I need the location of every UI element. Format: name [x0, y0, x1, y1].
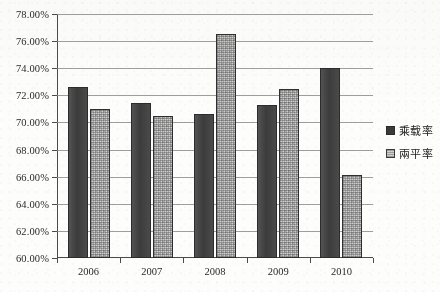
legend-swatch-icon	[386, 149, 395, 158]
bar-2007-series-1	[153, 116, 173, 258]
bar-chart: 60.00%62.00%64.00%66.00%68.00%70.00%72.0…	[0, 0, 440, 292]
x-tick-label-2008: 2008	[205, 266, 226, 277]
legend-swatch-icon	[386, 126, 395, 135]
legend-label: 兩平率	[399, 145, 433, 161]
bar-2007-series-0	[131, 103, 151, 258]
bar-group	[310, 14, 373, 258]
y-tick-label: 64.00%	[16, 198, 49, 209]
plot-area: 60.00%62.00%64.00%66.00%68.00%70.00%72.0…	[57, 14, 373, 258]
bar-2010-series-1	[342, 175, 362, 258]
bar-2006-series-0	[68, 87, 88, 258]
bar-2009-series-0	[257, 105, 277, 258]
bar-2008-series-0	[194, 114, 214, 258]
chart-legend: 乘载率兩平率	[386, 122, 433, 168]
x-tick-mark	[183, 258, 184, 263]
x-tick-mark	[120, 258, 121, 263]
bar-2010-series-0	[320, 68, 340, 258]
bar-2006-series-1	[90, 109, 110, 258]
bar-2009-series-1	[279, 89, 299, 258]
legend-label: 乘载率	[399, 122, 433, 138]
x-tick-label-2007: 2007	[141, 266, 162, 277]
y-tick-label: 76.00%	[16, 36, 49, 47]
legend-item-1[interactable]: 兩平率	[386, 145, 433, 161]
y-tick-label: 78.00%	[16, 9, 49, 20]
x-tick-label-2006: 2006	[78, 266, 99, 277]
y-tick-label: 68.00%	[16, 144, 49, 155]
y-tick-label: 60.00%	[16, 253, 49, 264]
bar-2008-series-1	[216, 34, 236, 258]
x-tick-label-2009: 2009	[268, 266, 289, 277]
x-tick-mark	[310, 258, 311, 263]
y-tick-label: 72.00%	[16, 90, 49, 101]
y-tick-label: 62.00%	[16, 225, 49, 236]
x-tick-mark	[57, 258, 58, 263]
bar-group	[120, 14, 183, 258]
y-tick-label: 66.00%	[16, 171, 49, 182]
legend-item-0[interactable]: 乘载率	[386, 122, 433, 138]
x-tick-mark	[247, 258, 248, 263]
x-tick-label-2010: 2010	[331, 266, 352, 277]
bar-group	[57, 14, 120, 258]
bar-group	[247, 14, 310, 258]
bar-group	[183, 14, 246, 258]
y-tick-label: 74.00%	[16, 63, 49, 74]
y-tick-label: 70.00%	[16, 117, 49, 128]
x-tick-mark	[373, 258, 374, 263]
